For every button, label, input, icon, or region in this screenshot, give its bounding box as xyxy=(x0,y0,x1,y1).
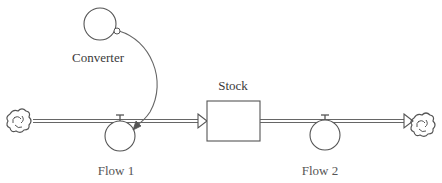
flow1-valve[interactable] xyxy=(105,115,135,151)
sink-cloud-icon[interactable] xyxy=(411,113,435,136)
flow2-valve[interactable] xyxy=(310,115,340,150)
stock-box[interactable] xyxy=(207,101,260,141)
converter-label: Converter xyxy=(72,50,124,66)
flow2-circle-icon xyxy=(310,120,340,150)
connector-origin-icon xyxy=(114,28,120,34)
stock-label: Stock xyxy=(218,78,248,94)
converter-circle-icon[interactable] xyxy=(84,8,116,40)
flow1-circle-icon xyxy=(105,121,135,151)
flow2-label: Flow 2 xyxy=(302,163,338,179)
flow1-arrowhead-icon xyxy=(198,114,207,128)
source-cloud-icon[interactable] xyxy=(7,109,31,132)
flow1-label: Flow 1 xyxy=(98,163,134,179)
